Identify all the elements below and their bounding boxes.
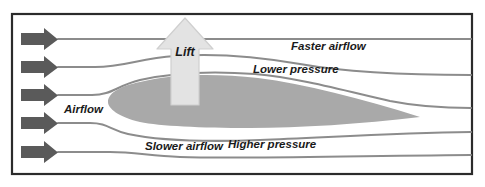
lower-pressure-label: Lower pressure [253,63,339,75]
faster-airflow-label: Faster airflow [291,40,367,52]
airflow-label: Airflow [63,103,104,115]
slower-airflow-label: Slower airflow [145,140,224,152]
diagram-canvas: Lift Airflow Faster airflow Lower pressu… [0,0,485,187]
higher-pressure-label: Higher pressure [228,138,317,150]
airfoil-lift-diagram: Lift Airflow Faster airflow Lower pressu… [0,0,485,187]
lift-label: Lift [175,45,195,59]
